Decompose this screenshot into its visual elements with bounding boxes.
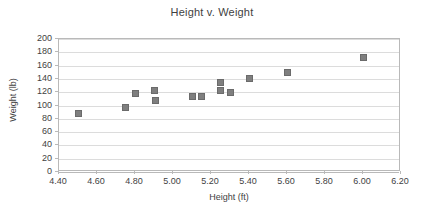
x-tick-mark — [58, 171, 59, 174]
data-point — [217, 87, 224, 94]
x-tick-mark — [134, 171, 135, 174]
data-point — [132, 90, 139, 97]
y-tick-mark — [55, 118, 58, 119]
plot-area — [58, 38, 400, 171]
x-tick-mark — [286, 171, 287, 174]
data-point — [122, 104, 129, 111]
data-point — [198, 93, 205, 100]
x-tick-mark — [400, 171, 401, 174]
y-tick-label: 40 — [4, 139, 52, 149]
y-tick-mark — [55, 144, 58, 145]
y-tick-label: 200 — [4, 33, 52, 43]
data-point — [151, 87, 158, 94]
gridline — [59, 172, 399, 173]
x-tick-mark — [96, 171, 97, 174]
data-point — [227, 89, 234, 96]
y-tick-mark — [55, 131, 58, 132]
y-tick-label: 180 — [4, 46, 52, 56]
x-tick-mark — [248, 171, 249, 174]
data-point — [189, 93, 196, 100]
x-tick-mark — [324, 171, 325, 174]
x-axis-title: Height (ft) — [58, 192, 400, 202]
data-points-layer — [59, 39, 399, 170]
y-tick-label: 20 — [4, 153, 52, 163]
chart-title: Height v. Weight — [0, 6, 424, 18]
x-tick-mark — [172, 171, 173, 174]
y-tick-mark — [55, 91, 58, 92]
data-point — [152, 97, 159, 104]
data-point — [360, 54, 367, 61]
data-point — [284, 69, 291, 76]
y-tick-mark — [55, 65, 58, 66]
y-tick-mark — [55, 158, 58, 159]
scatter-chart: Height v. Weight 02040608010012014016018… — [0, 0, 424, 223]
y-tick-mark — [55, 78, 58, 79]
x-tick-label: 6.20 — [377, 176, 423, 186]
y-tick-label: 0 — [4, 166, 52, 176]
data-point — [246, 75, 253, 82]
data-point — [75, 110, 82, 117]
y-axis-title: Weight (lb) — [8, 60, 18, 140]
x-tick-mark — [362, 171, 363, 174]
y-tick-mark — [55, 105, 58, 106]
data-point — [217, 79, 224, 86]
y-tick-mark — [55, 38, 58, 39]
x-tick-mark — [210, 171, 211, 174]
y-tick-mark — [55, 51, 58, 52]
